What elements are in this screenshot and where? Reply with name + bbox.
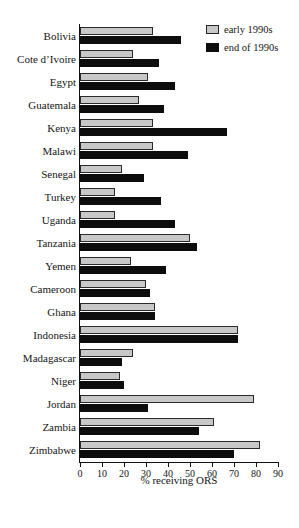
category-label: Cameroon [30,283,76,295]
bar-end-of-1990s [80,404,148,412]
category-label: Zambia [42,421,76,433]
bar-early-1990s [80,73,148,81]
bar-early-1990s [80,395,254,403]
x-axis-tick [168,462,169,467]
category-label: Tanzania [36,237,76,249]
chart-row: Tanzania [80,234,278,252]
bar-end-of-1990s [80,266,166,274]
chart-row: Indonesia [80,326,278,344]
plot-area: 0102030405060708090BoliviaCote d’IvoireE… [80,24,278,462]
category-label: Niger [51,375,76,387]
chart-row: Ghana [80,303,278,321]
chart-row: Yemen [80,257,278,275]
bar-end-of-1990s [80,128,227,136]
chart-row: Kenya [80,119,278,137]
bar-early-1990s [80,50,133,58]
chart-row: Cameroon [80,280,278,298]
bar-early-1990s [80,27,153,35]
x-axis-tick [212,462,213,467]
bar-end-of-1990s [80,151,188,159]
x-axis-tick [190,462,191,467]
category-label: Egypt [50,76,76,88]
chart-row: Uganda [80,211,278,229]
chart-row: Zambia [80,418,278,436]
bar-early-1990s [80,142,153,150]
bar-early-1990s [80,165,122,173]
category-label: Guatemala [28,99,76,111]
category-label: Kenya [47,122,76,134]
bar-end-of-1990s [80,450,234,458]
bar-end-of-1990s [80,358,122,366]
category-label: Cote d’Ivoire [17,53,76,65]
x-axis-tick [124,462,125,467]
bar-end-of-1990s [80,82,175,90]
chart-row: Malawi [80,142,278,160]
bar-early-1990s [80,234,190,242]
x-axis-tick [102,462,103,467]
category-label: Jordan [47,398,76,410]
chart-row: Egypt [80,73,278,91]
bar-early-1990s [80,372,120,380]
x-axis-tick [80,462,81,467]
bar-end-of-1990s [80,427,199,435]
bar-end-of-1990s [80,289,150,297]
bar-early-1990s [80,418,214,426]
chart-row: Madagascar [80,349,278,367]
category-label: Madagascar [23,352,76,364]
bar-early-1990s [80,303,155,311]
chart-row: Cote d’Ivoire [80,50,278,68]
bar-end-of-1990s [80,220,175,228]
bar-early-1990s [80,211,115,219]
bar-end-of-1990s [80,243,197,251]
category-label: Yemen [45,260,76,272]
bar-end-of-1990s [80,381,124,389]
category-label: Indonesia [33,329,76,341]
chart-row: Bolivia [80,27,278,45]
x-axis-line [79,462,279,463]
category-label: Malawi [42,145,76,157]
chart-row: Turkey [80,188,278,206]
bar-end-of-1990s [80,335,238,343]
x-axis-tick [146,462,147,467]
bar-end-of-1990s [80,59,159,67]
bar-early-1990s [80,349,133,357]
bar-end-of-1990s [80,105,164,113]
chart-row: Jordan [80,395,278,413]
chart-row: Guatemala [80,96,278,114]
bar-end-of-1990s [80,197,161,205]
bar-early-1990s [80,280,146,288]
category-label: Turkey [45,191,76,203]
x-axis-tick [256,462,257,467]
bar-early-1990s [80,96,139,104]
ors-bar-chart: early 1990s end of 1990s 010203040506070… [0,0,299,528]
bar-early-1990s [80,441,260,449]
chart-row: Senegal [80,165,278,183]
x-axis-title: % receiving ORS [80,474,278,487]
bar-end-of-1990s [80,312,155,320]
bar-end-of-1990s [80,36,181,44]
category-label: Bolivia [44,30,76,42]
category-label: Ghana [47,306,76,318]
bar-early-1990s [80,188,115,196]
bar-end-of-1990s [80,174,144,182]
x-axis-tick [278,462,279,467]
bar-early-1990s [80,326,238,334]
category-label: Zimbabwe [29,444,76,456]
bar-early-1990s [80,257,131,265]
chart-row: Niger [80,372,278,390]
chart-row: Zimbabwe [80,441,278,459]
category-label: Senegal [41,168,76,180]
category-label: Uganda [42,214,76,226]
x-axis-tick [234,462,235,467]
bar-early-1990s [80,119,153,127]
